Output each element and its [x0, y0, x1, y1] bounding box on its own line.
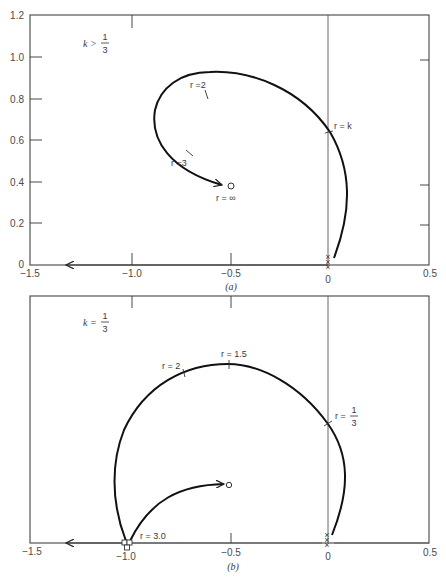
k-condition-label: k =: [83, 317, 97, 328]
y-tick-label: 0.6: [10, 135, 24, 146]
panel-b-frame: [30, 296, 429, 543]
k-condition-label: k >: [83, 38, 97, 49]
r-fraction-den: 3: [351, 418, 356, 428]
x-tick-label: −1.5: [22, 546, 42, 557]
k-fraction-num: 1: [102, 311, 107, 321]
breakaway-square-marker: [125, 545, 130, 550]
zero-marker-circle: [226, 482, 231, 487]
k-fraction-den: 3: [102, 324, 107, 334]
r-k-label: r = k: [334, 121, 352, 131]
r-fraction-num: 1: [351, 405, 356, 415]
pole-marker-x: ×: [325, 262, 330, 272]
r-3-0-label: r = 3.0: [140, 531, 166, 541]
panel-b-caption: (b): [227, 561, 239, 573]
r-2-mark: [205, 90, 208, 99]
pole-marker-x: ×: [324, 540, 329, 550]
y-tick-label: 0.2: [10, 218, 24, 229]
r-1-5-label: r = 1.5: [221, 349, 247, 359]
panel-b: −1.5 −1.0 −0.5 0 0.5 (b) k = 1 3 × × × r: [22, 296, 437, 573]
root-locus-outer-curve: [115, 364, 346, 541]
root-locus-figure: 1.2 1.0 0.8 0.6 0.4 0.2 0 −1.5 −1.0 −0.5…: [0, 0, 446, 579]
x-tick-label: 0: [325, 551, 331, 562]
r-one-third-label: r =: [335, 411, 346, 421]
r-2-label: r = 2: [162, 361, 180, 371]
r-3-label: r =3: [171, 158, 187, 168]
y-tick-label: 1.2: [10, 10, 24, 21]
x-tick-label: 0: [325, 274, 331, 285]
zero-marker-circle: [228, 183, 234, 189]
x-tick-label: −0.5: [221, 547, 241, 558]
k-fraction-den: 3: [102, 45, 107, 55]
panel-a: 1.2 1.0 0.8 0.6 0.4 0.2 0 −1.5 −1.0 −0.5…: [10, 10, 437, 293]
breakaway-square-marker: [127, 540, 132, 545]
x-tick-label: −1.0: [116, 551, 136, 562]
panel-a-caption: (a): [225, 281, 237, 293]
r-2-label: r =2: [190, 80, 206, 90]
k-fraction-num: 1: [102, 32, 107, 42]
breakaway-square-marker: [122, 540, 127, 545]
x-tick-label: −1.0: [122, 268, 142, 279]
x-tick-label: −0.5: [221, 268, 241, 279]
y-tick-label: 1.0: [10, 52, 24, 63]
x-tick-label: −1.5: [20, 268, 40, 279]
panel-a-frame: [30, 15, 429, 265]
y-tick-label: 0.8: [10, 94, 24, 105]
y-tick-label: 0.4: [10, 177, 24, 188]
r-3-mark: [186, 150, 193, 156]
x-tick-label: 0.5: [423, 268, 437, 279]
r-infinity-label: r = ∞: [216, 193, 236, 203]
x-tick-label: 0.5: [423, 547, 437, 558]
